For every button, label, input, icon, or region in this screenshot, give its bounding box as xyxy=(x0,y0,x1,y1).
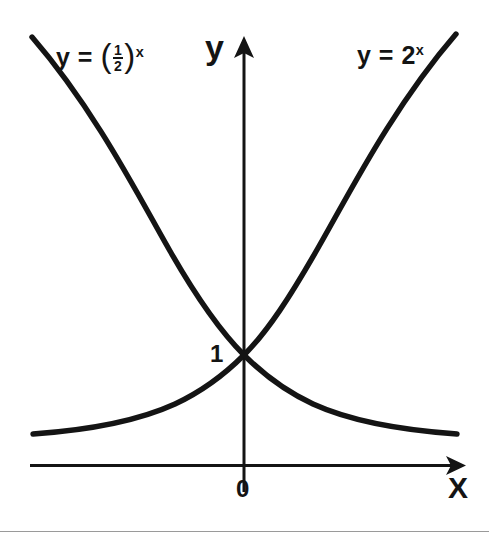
annotation-left-close-paren: ) xyxy=(124,39,136,72)
annotation-right-lhs: y xyxy=(357,43,371,68)
x-axis xyxy=(30,456,466,475)
annotation-right-base: 2 xyxy=(401,43,415,68)
annotation-right-curve-equation: y = 2x xyxy=(357,43,424,68)
origin-label-0: 0 xyxy=(236,477,249,501)
bottom-separator-rule xyxy=(0,531,489,532)
annotation-left-exponent: x xyxy=(136,44,145,60)
annotation-left-lhs: y xyxy=(56,45,70,70)
axis-label-y: y xyxy=(205,30,224,64)
plot-canvas xyxy=(0,0,489,542)
y-tick-label-1: 1 xyxy=(210,342,223,366)
annotation-left-denominator: 2 xyxy=(113,57,123,73)
y-axis xyxy=(234,36,254,492)
axis-label-x: X xyxy=(448,473,468,503)
annotation-left-curve-equation: y = (12)x xyxy=(56,38,144,75)
annotation-left-numerator: 1 xyxy=(113,43,123,57)
annotation-right-equals: = xyxy=(379,43,394,68)
annotation-left-equals: = xyxy=(78,45,93,70)
annotation-left-open-paren: ( xyxy=(100,39,112,72)
exponential-functions-figure: y X 1 0 y = (12)x y = 2x xyxy=(0,0,489,542)
annotation-left-fraction: 12 xyxy=(113,43,123,74)
annotation-right-exponent: x xyxy=(416,42,425,58)
